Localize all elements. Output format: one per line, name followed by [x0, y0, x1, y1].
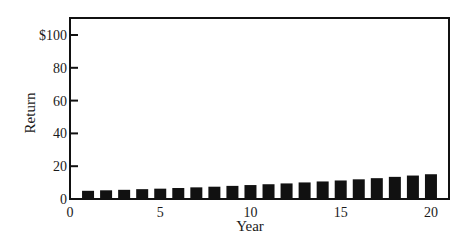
bar-year-9	[226, 186, 238, 199]
bar-year-11	[263, 184, 275, 199]
y-tick-label: 80	[53, 61, 67, 76]
bar-year-15	[335, 180, 347, 199]
bar-year-5	[154, 189, 166, 199]
x-tick-label: 0	[67, 205, 74, 220]
bar-year-19	[407, 176, 419, 199]
bar-year-17	[371, 178, 383, 199]
bar-year-13	[299, 182, 311, 199]
y-tick-label: $100	[39, 28, 67, 43]
bar-year-12	[281, 183, 293, 199]
y-tick-label: 20	[53, 159, 67, 174]
y-tick-label: 60	[53, 94, 67, 109]
bar-series	[82, 174, 437, 199]
bar-year-14	[317, 181, 329, 199]
bar-year-6	[172, 188, 184, 199]
bar-year-8	[208, 187, 220, 199]
bar-chart: 020406080$100 05101520 Year Return	[0, 0, 470, 248]
x-tick-label: 15	[334, 205, 348, 220]
x-tick-label: 5	[157, 205, 164, 220]
plot-frame	[70, 18, 449, 199]
bar-year-1	[82, 191, 94, 199]
bar-year-18	[389, 177, 401, 199]
bar-year-16	[353, 179, 365, 199]
y-axis: 020406080$100	[39, 28, 78, 207]
y-axis-title: Return	[22, 92, 38, 133]
y-tick-label: 40	[53, 126, 67, 141]
bar-year-20	[425, 174, 437, 199]
bar-year-7	[190, 187, 202, 199]
x-tick-label: 20	[424, 205, 438, 220]
bar-year-3	[118, 190, 130, 199]
x-axis-title: Year	[236, 218, 264, 234]
bar-year-4	[136, 189, 148, 199]
bar-year-2	[100, 190, 112, 199]
bar-year-10	[244, 185, 256, 199]
